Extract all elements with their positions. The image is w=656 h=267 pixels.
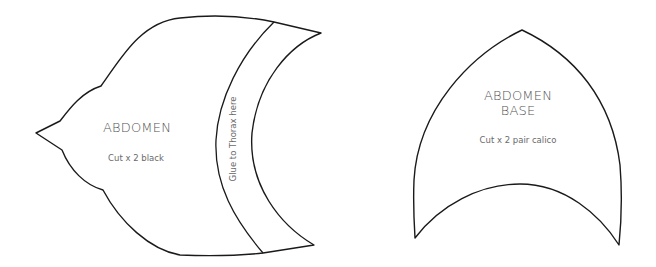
pattern-canvas (0, 0, 656, 267)
abdomen-base-instruction: Cut x 2 pair calico (480, 135, 557, 145)
abdomen-base-title-line2: BASE (501, 103, 536, 118)
abdomen-glue-label: Glue to Thorax here (228, 89, 238, 189)
abdomen-title: ABDOMEN (103, 120, 171, 135)
abdomen-base-title-line1: ABDOMEN (484, 88, 552, 103)
abdomen-outline (36, 16, 321, 255)
abdomen-instruction: Cut x 2 black (108, 153, 164, 163)
